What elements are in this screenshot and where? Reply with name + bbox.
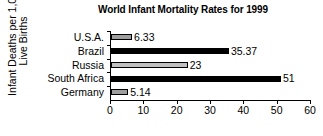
category-label: South Africa <box>0 72 104 86</box>
bar-value-label: 5.14 <box>130 86 150 100</box>
bar <box>111 48 229 54</box>
x-axis-tick-label: 0 <box>95 104 125 117</box>
bar-row: Germany5.14 <box>110 86 310 100</box>
bar-row: Brazil35.37 <box>110 45 310 59</box>
y-axis-tick <box>107 31 110 32</box>
x-axis-tick-label: 60 <box>295 104 323 117</box>
y-axis-tick <box>107 59 110 60</box>
x-axis-tick-label: 50 <box>262 104 292 117</box>
y-axis-tick <box>107 72 110 73</box>
x-axis-tick-label: 20 <box>162 104 192 117</box>
category-label: U.S.A. <box>0 31 104 45</box>
bar <box>111 34 132 40</box>
bar <box>111 89 128 95</box>
bar-value-label: 6.33 <box>134 31 154 45</box>
bar <box>111 76 281 82</box>
bar-row: Russia23 <box>110 59 310 73</box>
x-axis-tick-label: 10 <box>128 104 158 117</box>
category-label: Germany <box>0 86 104 100</box>
plot-area: U.S.A.6.33Brazil35.37Russia23South Afric… <box>110 31 310 100</box>
bar-value-label: 51 <box>283 72 295 86</box>
x-axis-tick-label: 40 <box>228 104 258 117</box>
bar-chart: World Infant Mortality Rates for 1999 In… <box>0 0 323 136</box>
bar-value-label: 35.37 <box>231 45 257 59</box>
category-label: Russia <box>0 59 104 73</box>
chart-title: World Infant Mortality Rates for 1999 <box>52 4 314 15</box>
bar <box>111 62 188 68</box>
category-label: Brazil <box>0 45 104 59</box>
bar-value-label: 23 <box>190 59 202 73</box>
bar-row: U.S.A.6.33 <box>110 31 310 45</box>
y-axis-tick <box>107 45 110 46</box>
y-axis-tick <box>107 86 110 87</box>
x-axis-tick-label: 30 <box>195 104 225 117</box>
bar-row: South Africa51 <box>110 72 310 86</box>
